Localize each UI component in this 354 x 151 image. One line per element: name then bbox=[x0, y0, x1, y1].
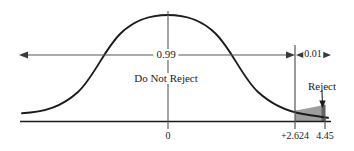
confidence-arrow-head-left bbox=[19, 52, 28, 59]
axis-tick-label-mean: 0 bbox=[166, 131, 171, 141]
reject-label: Reject bbox=[308, 81, 336, 92]
confidence-arrow-head-right bbox=[286, 52, 295, 59]
axis-tick-label-critical-value: +2.624 bbox=[281, 131, 309, 141]
do-not-reject-label: Do Not Reject bbox=[132, 73, 200, 84]
confidence-level-label: 0.99 bbox=[153, 49, 178, 60]
axis-tick-label-test-statistic: 4.45 bbox=[316, 131, 334, 141]
normal-curve-figure: 0.99 0.01 Do Not Reject Reject 0 +2.624 … bbox=[0, 0, 354, 151]
significance-level-label: 0.01 bbox=[303, 49, 323, 59]
alpha-arrow-head-right bbox=[323, 52, 331, 58]
normal-density-curve bbox=[22, 15, 328, 118]
